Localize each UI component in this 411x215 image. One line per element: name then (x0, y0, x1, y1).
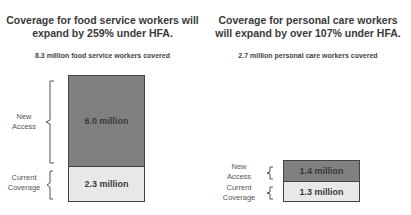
label-line: Current (216, 183, 262, 193)
label-line: Coverage (216, 193, 262, 203)
food-service-title: Coverage for food service workers will e… (0, 14, 205, 40)
food-service-panel: Coverage for food service workers will e… (0, 0, 205, 215)
current-coverage-brace-icon (45, 170, 55, 200)
title-line-2: will expand by over 107% under HFA. (205, 27, 411, 40)
current-coverage-bar: 1.3 million (283, 181, 360, 202)
new-access-brace-icon (266, 166, 274, 180)
new-access-brace-icon (44, 80, 56, 164)
label-line: Current (2, 173, 46, 183)
personal-care-panel: Coverage for personal care workers will … (205, 0, 411, 215)
label-line: New (4, 112, 44, 122)
personal-care-title: Coverage for personal care workers will … (205, 14, 411, 40)
current-coverage-value: 2.3 million (84, 179, 128, 189)
food-service-subtitle: 8.3 million food service workers covered (0, 52, 205, 59)
current-coverage-label: Current Coverage (2, 173, 46, 193)
current-coverage-bar: 2.3 million (68, 166, 145, 202)
title-line-2: expand by 259% under HFA. (0, 27, 205, 40)
label-line: Access (4, 122, 44, 132)
title-line-1: Coverage for food service workers will (0, 14, 205, 27)
new-access-bar: 1.4 million (283, 160, 360, 182)
new-access-label: New Access (4, 112, 44, 132)
new-access-value: 1.4 million (299, 166, 343, 176)
new-access-bar: 6.0 million (68, 75, 145, 167)
new-access-label: New Access (219, 162, 259, 182)
label-line: Coverage (2, 183, 46, 193)
label-line: Access (219, 172, 259, 182)
personal-care-subtitle: 2.7 million personal care workers covere… (205, 52, 411, 59)
title-line-1: Coverage for personal care workers (205, 14, 411, 27)
current-coverage-brace-icon (266, 186, 274, 200)
current-coverage-value: 1.3 million (299, 187, 343, 197)
current-coverage-label: Current Coverage (216, 183, 262, 203)
new-access-value: 6.0 million (84, 116, 128, 126)
label-line: New (219, 162, 259, 172)
